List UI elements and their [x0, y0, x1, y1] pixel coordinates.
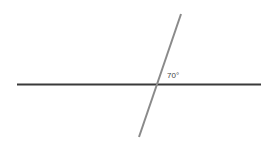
angle-diagram: 70° — [0, 0, 275, 146]
angle-label: 70° — [167, 71, 179, 80]
